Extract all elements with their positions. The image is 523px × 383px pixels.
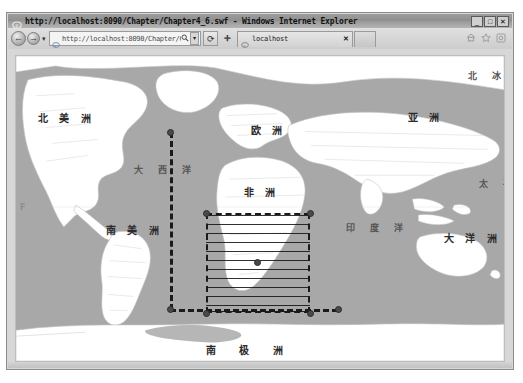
navigation-bar: ← → ▾ e http://localhost:8090/Chapter/Ch… (8, 28, 512, 49)
selection-handle-bottom-left[interactable] (203, 310, 210, 317)
address-dropdown-button[interactable]: ▾ (190, 32, 199, 45)
window-title: http://localhost:8090/Chapter/Chapter4_6… (25, 17, 471, 26)
world-map-graphic (16, 56, 504, 361)
guide-handle-corner[interactable] (167, 306, 174, 313)
maximize-button[interactable]: □ (484, 16, 496, 27)
address-bar-text[interactable]: http://localhost:8090/Chapter/Chapter4 (62, 35, 181, 43)
address-bar[interactable]: e http://localhost:8090/Chapter/Chapter4… (49, 31, 201, 46)
selection-handle-top-right[interactable] (307, 210, 314, 217)
status-bar (8, 362, 512, 368)
guide-handle-top[interactable] (167, 129, 174, 136)
forward-arrow-icon: → (29, 34, 38, 43)
tab-favicon-icon: e (241, 35, 249, 43)
refresh-button[interactable]: ⟳ (203, 31, 218, 46)
favorites-star-icon[interactable] (481, 33, 491, 45)
search-icon[interactable] (181, 34, 189, 44)
browser-window: e http://localhost:8090/Chapter/Chapter4… (6, 12, 514, 370)
tab-title: localhost (252, 35, 343, 43)
tab-close-icon[interactable]: ✕ (343, 35, 350, 43)
back-arrow-icon: ← (14, 34, 23, 43)
stop-button[interactable]: ✛ (220, 31, 233, 46)
history-dropdown-button[interactable]: ▾ (42, 35, 46, 43)
selection-handle-center[interactable] (254, 259, 261, 266)
toolbar-right-icons (466, 33, 509, 45)
guide-line-vertical[interactable] (170, 132, 173, 310)
minimize-button[interactable]: _ (471, 16, 483, 27)
page-favicon-icon: e (52, 35, 60, 43)
back-button[interactable]: ← (11, 31, 26, 46)
tab-localhost[interactable]: e localhost ✕ (237, 31, 353, 47)
forward-button[interactable]: → (27, 32, 40, 45)
selection-handle-top-left[interactable] (203, 210, 210, 217)
home-icon[interactable] (466, 33, 476, 44)
selection-handle-bottom-right[interactable] (307, 310, 314, 317)
close-button[interactable]: ✕ (497, 16, 509, 27)
tools-gear-icon[interactable] (496, 33, 506, 45)
title-bar: e http://localhost:8090/Chapter/Chapter4… (8, 14, 512, 28)
ie-logo-icon: e (12, 16, 22, 26)
new-tab-button[interactable] (354, 31, 376, 47)
guide-handle-right[interactable] (335, 306, 342, 313)
screenshot-root: e http://localhost:8090/Chapter/Chapter4… (0, 0, 523, 383)
window-controls: _ □ ✕ (471, 16, 510, 27)
flash-map-canvas[interactable]: 北 美 洲 南 美 洲 欧 洲 亚 洲 非 洲 大 洋 洲 南 极 洲 北 冰 … (15, 55, 505, 362)
